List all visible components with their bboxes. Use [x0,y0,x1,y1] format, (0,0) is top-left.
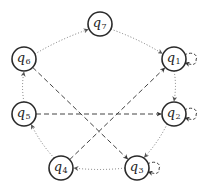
transition-q4-to-q5 [31,125,54,158]
state-q6[interactable]: q6 [12,47,36,71]
state-subscript: 6 [25,57,30,66]
state-subscript: 7 [101,22,106,31]
state-q4[interactable]: q4 [49,156,73,180]
state-diagram: q1q2q3q4q5q6q7 [0,0,221,190]
state-subscript: 2 [175,112,180,121]
transition-q2-to-q3 [144,124,167,157]
state-q7[interactable]: q7 [88,12,112,36]
diagram-canvas: q1q2q3q4q5q6q7 [0,0,221,190]
state-label: q [93,15,101,30]
state-q3[interactable]: q3 [125,156,149,180]
transition-q6-to-q3 [33,67,128,159]
state-label: q [17,50,25,65]
transition-q6-to-q7 [35,29,88,54]
state-subscript: 5 [25,112,30,121]
states-layer: q1q2q3q4q5q6q7 [12,12,186,180]
state-label: q [17,105,25,120]
state-label: q [167,50,175,65]
state-q2[interactable]: q2 [162,102,186,126]
state-label: q [54,159,62,174]
state-subscript: 4 [62,166,67,175]
state-q5[interactable]: q5 [12,102,36,126]
transition-q3-to-q4 [74,168,125,169]
state-subscript: 1 [175,57,180,66]
state-q1[interactable]: q1 [162,47,186,71]
transition-q1-to-q2 [174,71,175,101]
state-label: q [167,105,175,120]
transition-q7-to-q1 [111,29,162,53]
state-label: q [130,159,138,174]
transition-q5-to-q6 [23,72,24,102]
state-subscript: 3 [138,166,143,175]
